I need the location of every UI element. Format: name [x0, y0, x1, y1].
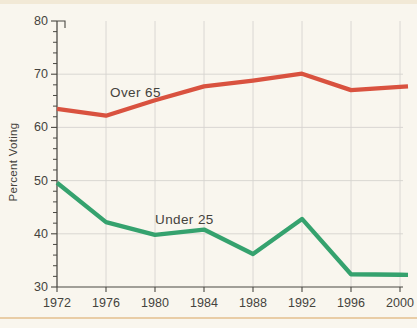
y-tick-label: 30	[34, 280, 48, 294]
y-axis-title: Percent Voting	[7, 122, 19, 201]
chart-canvas: 3040506070801972197619801984198819921996…	[0, 0, 417, 328]
textbook-page-background: 3040506070801972197619801984198819921996…	[0, 0, 417, 328]
x-tick-label: 1976	[92, 296, 120, 310]
x-tick-label: 1996	[337, 296, 365, 310]
x-tick-label: 1992	[288, 296, 316, 310]
page-bottom-rule	[0, 317, 417, 319]
x-tick-label: 1984	[190, 296, 218, 310]
series-label-under-25: Under 25	[155, 212, 214, 227]
line-chart: 3040506070801972197619801984198819921996…	[0, 0, 417, 328]
y-tick-label: 70	[34, 67, 48, 81]
y-axis-top-cap	[57, 21, 65, 28]
x-tick-label: 2000	[386, 296, 414, 310]
y-tick-label: 80	[34, 14, 48, 28]
x-tick-label: 1988	[239, 296, 267, 310]
y-tick-label: 60	[34, 120, 48, 134]
series-line-under-25	[57, 183, 408, 275]
y-tick-label: 50	[34, 174, 48, 188]
x-tick-label: 1980	[141, 296, 169, 310]
series-label-over-65: Over 65	[110, 85, 161, 100]
x-tick-label: 1972	[43, 296, 71, 310]
y-tick-label: 40	[34, 227, 48, 241]
